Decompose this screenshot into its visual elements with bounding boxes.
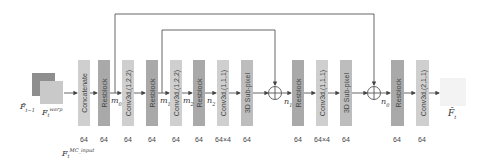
resblock-4: Resblock	[292, 60, 304, 126]
feature-n0-label: n0	[381, 97, 389, 108]
channels-resblock-3: 64	[195, 136, 203, 143]
conv3d-1x1-1: Conv3d,(1,1,1)	[217, 60, 229, 126]
conv3d-downsample-2: Conv3d,(1,2,2)	[170, 60, 182, 126]
resblock-3: Resblock	[193, 60, 205, 126]
channels-resblock-5: 64	[393, 136, 401, 143]
channels-conv3d-1x1-1: 64×4	[215, 136, 231, 143]
conv3d-temporal-output: Conv3d,(2,1,1)	[416, 60, 429, 126]
conv3d-1x1-2: Conv3d,(1,1,1)	[316, 60, 328, 126]
channels-conv3d-1x1-2: 64×4	[314, 136, 330, 143]
channels-conv3d-downsample-2: 64	[172, 136, 180, 143]
feature-n2-label: n2	[207, 96, 215, 107]
resblock-2: Resblock	[146, 60, 158, 126]
concatenate-block: Concatenate	[78, 60, 90, 126]
channels-subpixel-3d-1: 64	[243, 136, 251, 143]
output-frame-thumbnail	[440, 78, 466, 106]
channels-resblock-2: 64	[148, 136, 156, 143]
feature-m2-label: m2	[183, 96, 194, 107]
conv3d-downsample-1: Conv3d,(1,2,2)	[122, 60, 134, 126]
warped-frame-thumbnail	[40, 81, 63, 104]
feature-m1-label: m1	[160, 96, 171, 107]
channels-conv3d-downsample-1: 64	[124, 136, 132, 143]
feature-m0-label: m0	[111, 96, 122, 107]
subpixel-3d-2: 3D Sub-pixel	[340, 60, 352, 126]
warped-frame-label: Ftwarp	[42, 106, 62, 118]
output-frame-label: F̂t	[448, 108, 456, 120]
channels-conv3d-temporal-output: 64	[418, 136, 426, 143]
previous-frame-label: F̂t−1	[20, 102, 35, 113]
channels-subpixel-3d-2: 64	[342, 136, 350, 143]
mc-input-label: FtMC_input	[62, 147, 94, 159]
feature-n1-label: n1	[284, 97, 292, 108]
subpixel-3d-1: 3D Sub-pixel	[241, 60, 253, 126]
channels-resblock-1: 64	[100, 136, 108, 143]
network-diagram: F̂t−1 Ftwarp FtMC_input Concatenate Resb…	[0, 0, 481, 167]
resblock-1: Resblock	[98, 60, 110, 126]
channels-resblock-4: 64	[294, 136, 302, 143]
channels-concatenate: 64	[80, 136, 88, 143]
resblock-5: Resblock	[391, 60, 404, 126]
